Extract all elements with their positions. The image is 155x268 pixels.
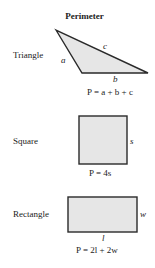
square-formula: P = 4s (89, 168, 111, 178)
square-shape (79, 116, 127, 164)
rectangle-side-l: l (102, 233, 105, 243)
triangle-shape (56, 30, 148, 73)
shapes-canvas (0, 0, 155, 268)
rectangle-shape (68, 197, 137, 232)
rectangle-formula: P = 2l + 2w (76, 245, 118, 255)
rectangle-label: Rectangle (13, 209, 49, 219)
triangle-side-c: c (103, 41, 107, 51)
triangle-label: Triangle (13, 50, 43, 60)
square-label: Square (13, 136, 38, 146)
triangle-side-a: a (61, 55, 66, 65)
triangle-formula: P = a + b + c (87, 87, 133, 97)
square-side-s: s (130, 136, 134, 146)
rectangle-side-w: w (140, 209, 146, 219)
triangle-side-b: b (113, 74, 118, 84)
